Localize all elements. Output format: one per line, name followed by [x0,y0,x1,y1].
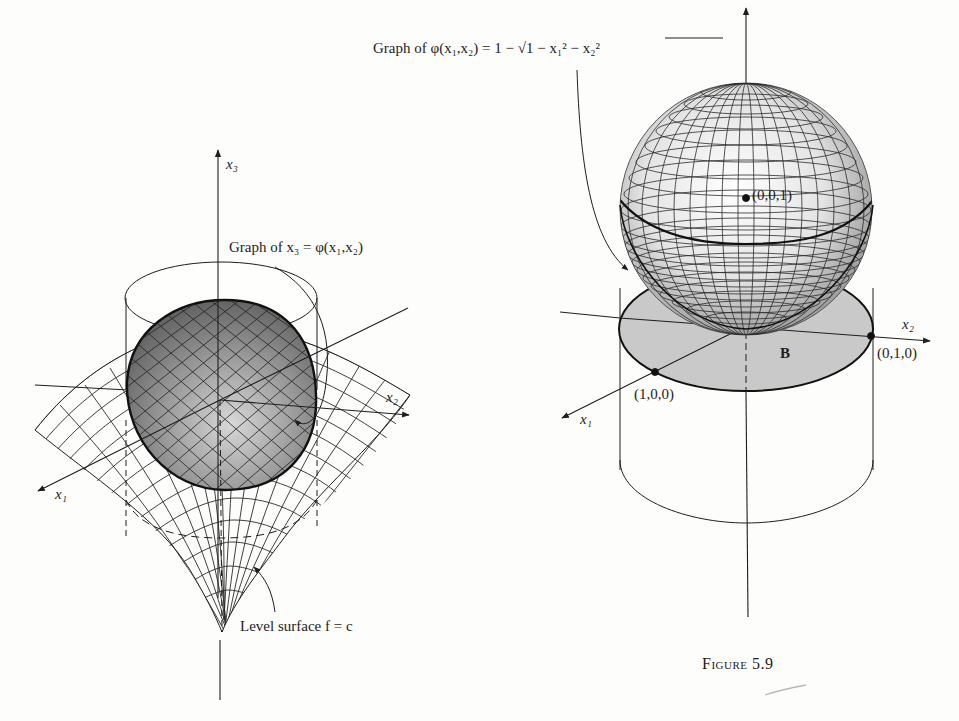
sqrt-symbol: √ [518,40,526,56]
figure-caption: Figure 5.9 [702,655,774,673]
region-b-label: B [780,345,790,362]
right-graph-label-prefix: Graph of φ(x₁,x₂) = 1 − [373,40,518,56]
x2-axis-label-right: x₂ [902,316,914,333]
x2-intercept-label: (0,1,0) [877,345,917,362]
left-diagram [35,150,410,700]
center-point-label: (0,0,1) [752,187,792,204]
x1-axis-label-left: x₁ [55,486,67,503]
level-surface-label: Level surface f = c [240,618,353,635]
shaded-region [127,300,316,490]
x2-intercept-point [868,333,875,340]
x1-axis-label-right: x₁ [580,411,592,428]
right-diagram [560,8,930,695]
sphere-pointer-arrow [577,70,628,270]
right-graph-label: Graph of φ(x₁,x₂) = 1 − √1 − x₁² − x₂² [373,40,600,57]
x1-intercept-point [652,369,659,376]
x3-axis-label: x₃ [226,156,238,173]
x1-intercept-label: (1,0,0) [634,386,674,403]
x2-axis-label-left: x₂ [386,389,398,406]
figure-canvas [0,0,959,721]
center-point [743,195,750,202]
left-graph-label: Graph of x₃ = φ(x₁,x₂) [229,239,363,256]
right-graph-label-radicand: 1 − x₁² − x₂² [526,40,600,56]
